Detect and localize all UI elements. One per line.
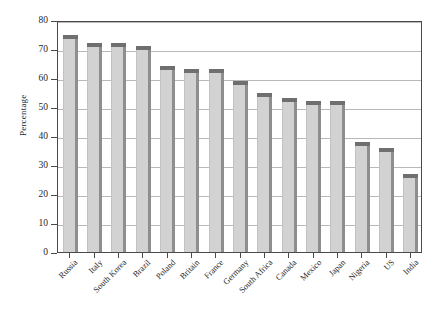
x-axis-tick-label: Brazil [131,258,152,279]
bar [184,69,199,252]
bar [233,81,248,252]
y-axis-tick-label: 10 [39,219,49,229]
bar-face [355,145,367,252]
bar-top [209,69,224,73]
y-axis-tick-label: 70 [39,45,49,55]
bar-face [330,104,342,252]
bar-face [63,38,75,253]
bar-face [111,46,123,252]
bar-top [63,35,78,39]
bar-side [196,72,199,252]
y-axis-tick-label: 60 [39,74,49,84]
x-axis-labels: RussiaItalySouth KoreaBrazilPolandBritai… [57,258,422,323]
bar [355,142,370,252]
plot-area [57,21,422,253]
bar [306,101,321,252]
bar-side [367,145,370,252]
bar-side [391,151,394,252]
bar-top [87,43,102,47]
bar-top [306,101,321,105]
bar [209,69,224,252]
bar [136,46,151,252]
bar [87,43,102,252]
bar-top [379,148,394,152]
bar-face [136,49,148,252]
bar-face [209,72,221,252]
y-axis-title: Percentage [18,16,28,136]
bar-top [257,93,272,97]
bar-top [184,69,199,73]
bar-top [282,98,297,102]
bar [111,43,126,252]
x-axis-tick-label: Mexico [298,258,322,282]
bar-side [123,46,126,252]
y-axis-tick-label: 20 [39,190,49,200]
x-axis-tick-label: US [382,258,396,272]
bar-top [330,101,345,105]
y-axis-tick-label: 80 [39,16,49,26]
bar-chart: Percentage 01020304050607080 RussiaItaly… [0,0,431,323]
bar-side [148,49,151,252]
y-axis-tick-label: 50 [39,103,49,113]
x-axis-tick-label: Canada [274,258,298,282]
bar [403,174,418,252]
bar-face [379,151,391,252]
bar-series [58,22,421,252]
bar [282,98,297,252]
bar-side [415,177,418,252]
bar-face [87,46,99,252]
bar-face [233,84,245,252]
x-axis-tick-label: India [401,258,419,276]
bar-top [403,174,418,178]
bar-side [342,104,345,252]
x-axis-tick-label: Nigeria [347,258,371,282]
bar [160,66,175,252]
bar-top [355,142,370,146]
bar-side [294,101,297,252]
bar-face [282,101,294,252]
x-axis-tick-label: Britain [178,258,201,281]
bar-top [160,66,175,70]
x-axis-tick-label: Russia [57,258,79,280]
x-axis-tick-label: Italy [86,258,103,275]
bar [257,93,272,253]
y-axis-tick-label: 30 [39,161,49,171]
bar-side [75,38,78,253]
bar-face [257,96,269,253]
bar-side [245,84,248,252]
bar-top [136,46,151,50]
bar-side [172,69,175,252]
bar-face [160,69,172,252]
bar-face [306,104,318,252]
bar [63,35,78,253]
bar-face [403,177,415,252]
y-axis-label-area: Percentage 01020304050607080 [0,21,57,253]
bar [379,148,394,252]
bar-side [318,104,321,252]
bar-top [233,81,248,85]
x-axis-tick-label: Japan [327,258,347,278]
bar-side [99,46,102,252]
bar-top [111,43,126,47]
y-axis-tick-label: 40 [39,132,49,142]
bar [330,101,345,252]
x-axis-tick-label: Poland [154,258,177,281]
y-axis-tick-label: 0 [43,248,48,258]
bar-side [269,96,272,253]
bar-face [184,72,196,252]
bar-side [221,72,224,252]
